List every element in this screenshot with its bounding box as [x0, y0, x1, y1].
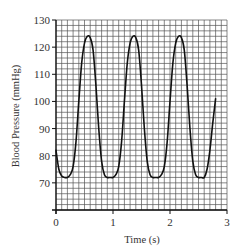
x-tick-label: 2 — [167, 216, 173, 228]
x-tick-label: 0 — [53, 216, 59, 228]
y-tick-label: 110 — [34, 68, 51, 80]
y-tick-label: 130 — [34, 14, 51, 26]
y-tick-label: 90 — [39, 123, 51, 135]
tick-labels: 7080901001101201300123 — [34, 14, 231, 228]
x-tick-label: 3 — [224, 216, 230, 228]
y-tick-label: 70 — [39, 177, 51, 189]
grid — [56, 20, 227, 210]
y-tick-label: 120 — [34, 41, 51, 53]
y-axis-label: Blood Pressure (mmHg) — [10, 64, 22, 167]
blood-pressure-chart: 7080901001101201300123 Time (s) Blood Pr… — [0, 0, 239, 252]
x-tick-label: 1 — [110, 216, 116, 228]
x-axis-label: Time (s) — [124, 234, 160, 246]
y-tick-label: 80 — [39, 150, 51, 162]
y-tick-label: 100 — [34, 95, 51, 107]
